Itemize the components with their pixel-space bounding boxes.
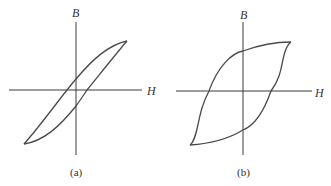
caption-a: (a) [70, 166, 83, 179]
h-axis-label-b: H [314, 86, 325, 100]
b-axis-label-a: B [72, 6, 80, 20]
panel-b: B H (b) [176, 8, 325, 179]
hysteresis-loop-lower-b [190, 42, 291, 145]
hysteresis-loop-upper-b [190, 42, 291, 145]
caption-b: (b) [237, 166, 250, 179]
b-axis-label-b: B [240, 8, 248, 22]
hysteresis-figure: B H (a) B H (b) [0, 0, 331, 186]
h-axis-label-a: H [146, 84, 157, 98]
panel-a: B H (a) [9, 6, 157, 179]
